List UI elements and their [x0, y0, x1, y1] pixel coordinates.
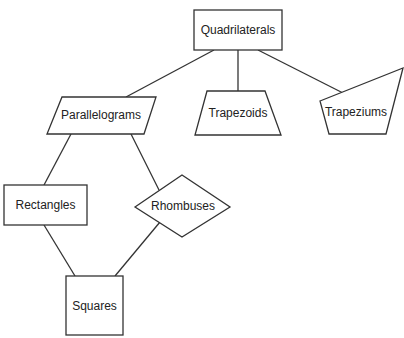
node-trapezoids: Trapezoids	[195, 91, 281, 135]
edge-parallelograms-rectangles	[44, 134, 71, 185]
quadrilateral-hierarchy-diagram: Quadrilaterals Parallelograms Trapezoids…	[0, 0, 404, 338]
node-squares: Squares	[66, 276, 123, 335]
node-label: Quadrilaterals	[201, 23, 276, 37]
node-label: Rectangles	[15, 198, 75, 212]
edge-quadrilaterals-trapeziums	[258, 50, 343, 93]
node-rhombuses: Rhombuses	[135, 175, 230, 237]
node-parallelograms: Parallelograms	[47, 97, 156, 134]
node-label: Squares	[72, 299, 117, 313]
trapezium-shape	[320, 68, 403, 134]
node-quadrilaterals: Quadrilaterals	[194, 10, 282, 50]
edge-rhombuses-squares	[115, 222, 160, 276]
node-label: Trapezoids	[209, 106, 268, 120]
edges	[44, 50, 343, 276]
node-label: Parallelograms	[61, 108, 141, 122]
node-trapeziums: Trapeziums	[320, 68, 403, 134]
node-label: Rhombuses	[151, 199, 215, 213]
node-label: Trapeziums	[325, 105, 387, 119]
node-rectangles: Rectangles	[4, 185, 87, 225]
edge-rectangles-squares	[44, 225, 75, 276]
edge-parallelograms-rhombuses	[131, 134, 159, 190]
edge-quadrilaterals-parallelograms	[126, 50, 214, 97]
